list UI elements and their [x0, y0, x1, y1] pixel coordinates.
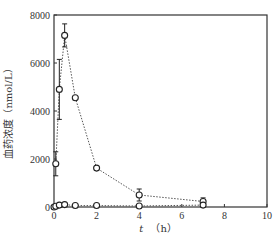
- x-tick-label: 2: [94, 210, 99, 221]
- data-point: [72, 95, 78, 101]
- x-tick-label: 10: [262, 210, 272, 221]
- data-point: [62, 32, 68, 38]
- y-tick-label: 2000: [30, 154, 50, 165]
- data-point: [62, 202, 68, 208]
- y-tick-label: 8000: [30, 10, 50, 21]
- data-point: [94, 203, 100, 209]
- x-axis-title: t （h）: [139, 223, 177, 234]
- series-layer: [51, 24, 206, 210]
- data-point: [200, 202, 206, 208]
- data-point: [136, 192, 142, 198]
- chart: 0246810 02000400060008000 t （h） 血药浓度（nmo…: [0, 0, 276, 241]
- y-ticks: 02000400060008000: [30, 10, 57, 213]
- x-tick-label: 6: [179, 210, 184, 221]
- y-tick-label: 0: [45, 202, 50, 213]
- axes: [54, 15, 267, 207]
- series-line: [56, 35, 203, 201]
- data-point: [56, 86, 62, 92]
- x-tick-label: 8: [222, 210, 227, 221]
- data-point: [53, 161, 59, 167]
- series-2: [51, 202, 206, 210]
- x-tick-label: 4: [137, 210, 142, 221]
- y-axis-title: 血药浓度（nmol/L）: [2, 63, 14, 158]
- data-point: [72, 203, 78, 209]
- data-point: [94, 165, 100, 171]
- data-point: [136, 203, 142, 209]
- x-axis-var: t: [139, 223, 144, 234]
- plot-frame: [54, 15, 267, 207]
- series-1: [53, 24, 206, 205]
- y-tick-label: 4000: [30, 106, 50, 117]
- y-tick-label: 6000: [30, 58, 50, 69]
- x-tick-label: 0: [52, 210, 57, 221]
- x-axis-unit: （h）: [150, 223, 176, 234]
